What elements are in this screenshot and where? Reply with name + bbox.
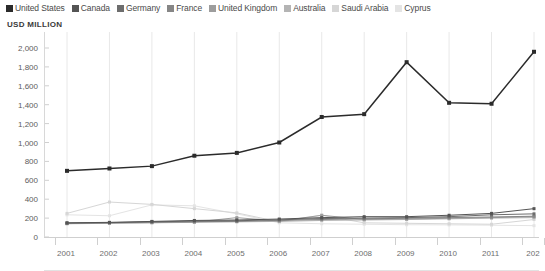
x-axis-tick [182,238,183,245]
y-axis-tick-label: 400 [25,195,38,204]
legend-label: United States [15,4,65,13]
x-axis-tick [437,238,438,245]
x-axis-tick-label: 2006 [269,249,287,258]
data-point-marker[interactable] [108,201,111,204]
data-point-marker[interactable] [448,222,451,225]
data-point-marker[interactable] [193,207,196,210]
chart-canvas [45,32,540,237]
legend-swatch-icon [395,5,402,12]
data-point-marker[interactable] [107,166,111,170]
x-axis-tick [352,238,353,245]
legend-swatch-icon [6,5,13,12]
series-united-states[interactable] [65,50,536,173]
data-point-marker[interactable] [405,215,408,218]
data-point-marker[interactable] [447,101,451,105]
x-axis-tick-label: 202 [526,249,539,258]
data-point-marker[interactable] [533,224,536,227]
legend-label: Germany [126,4,160,13]
data-point-marker[interactable] [448,214,451,217]
data-point-marker[interactable] [108,221,111,224]
data-point-marker[interactable] [490,212,493,215]
data-point-marker[interactable] [533,212,536,215]
x-axis-tick [310,238,311,245]
chart-legend: United StatesCanadaGermanyFranceUnited K… [6,3,438,14]
x-axis-tick-label: 2009 [397,249,415,258]
x-axis-tick [225,238,226,245]
gridlines [67,32,534,237]
legend-item[interactable]: Cyprus [395,4,430,13]
x-axis-tick-label: 2003 [142,249,160,258]
data-point-marker[interactable] [150,220,153,223]
y-axis-tick-label: 1,000 [18,138,38,147]
plot-area [44,32,539,237]
data-point-marker[interactable] [193,219,196,222]
y-axis-tick-label: 800 [25,157,38,166]
legend-swatch-icon [209,5,216,12]
legend-item[interactable]: United Kingdom [209,4,277,13]
data-point-marker[interactable] [320,115,324,119]
y-axis-title: USD MILLION [7,20,62,29]
data-point-marker[interactable] [320,216,323,219]
legend-item[interactable]: Canada [72,4,110,13]
x-axis-tick [522,238,523,245]
x-axis-tick [267,238,268,245]
data-point-marker[interactable] [235,218,238,221]
data-point-marker[interactable] [363,221,366,224]
data-point-marker[interactable] [405,222,408,225]
y-axis-tick-label: 200 [25,214,38,223]
y-axis-ticks [45,48,49,237]
data-point-marker[interactable] [532,50,536,54]
y-axis-tick-label: 600 [25,176,38,185]
chart-root: United StatesCanadaGermanyFranceUnited K… [0,0,545,271]
legend-item[interactable]: France [167,4,202,13]
data-point-marker[interactable] [66,212,69,215]
data-point-marker[interactable] [150,164,154,168]
y-axis-tick-label: 1,400 [18,100,38,109]
data-point-marker[interactable] [533,207,536,210]
x-axis-tick-label: 2011 [482,249,499,258]
data-point-marker[interactable] [65,169,69,173]
x-axis-tick-label: 2010 [439,249,457,258]
legend-label: Canada [81,4,110,13]
data-point-marker[interactable] [235,211,238,214]
data-point-marker[interactable] [320,222,323,225]
y-axis-tick-label: 0 [34,233,38,242]
legend-item[interactable]: United States [6,4,65,13]
data-point-marker[interactable] [150,203,153,206]
legend-item[interactable]: Australia [284,4,325,13]
data-point-marker[interactable] [490,102,494,106]
legend-label: Cyprus [404,4,430,13]
x-axis-tick-label: 2002 [100,249,118,258]
data-point-marker[interactable] [193,204,196,207]
y-axis-labels: 02004006008001,0001,2001,4001,6001,8002,… [0,32,42,237]
data-point-marker[interactable] [278,218,281,221]
data-point-marker[interactable] [362,112,366,116]
legend-label: France [176,4,202,13]
legend-label: Australia [293,4,325,13]
data-point-marker[interactable] [235,151,239,155]
data-point-marker[interactable] [108,214,111,217]
data-point-marker[interactable] [363,215,366,218]
data-point-marker[interactable] [192,154,196,158]
legend-swatch-icon [167,5,174,12]
x-axis-tick-label: 2008 [354,249,372,258]
y-axis-tick-label: 2,000 [18,44,38,53]
legend-swatch-icon [72,5,79,12]
data-point-marker[interactable] [277,141,281,145]
x-axis-tick-label: 2004 [184,249,202,258]
legend-swatch-icon [117,5,124,12]
legend-item[interactable]: Germany [117,4,160,13]
data-point-marker[interactable] [405,60,409,64]
legend-item[interactable]: Saudi Arabia [332,4,388,13]
x-axis-tick [55,238,56,245]
legend-label: Saudi Arabia [341,4,388,13]
data-point-marker[interactable] [66,221,69,224]
series-line [67,52,534,171]
legend-label: United Kingdom [218,4,277,13]
y-axis-tick-label: 1,200 [18,119,38,128]
x-axis-tick [395,238,396,245]
y-axis-tick-label: 1,600 [18,81,38,90]
data-point-marker[interactable] [490,223,493,226]
legend-swatch-icon [284,5,291,12]
x-axis-tick-label: 2001 [57,249,75,258]
